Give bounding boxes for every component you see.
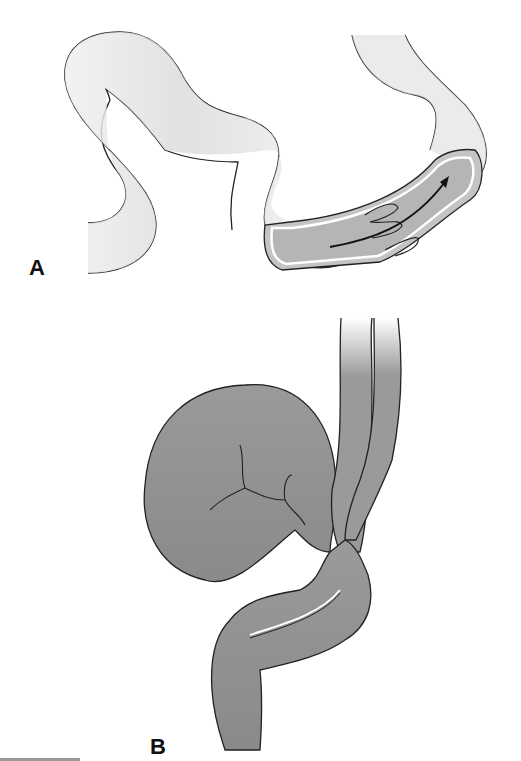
- panel-label-a: A: [29, 255, 45, 281]
- panel-b-volvulus: [0, 290, 521, 761]
- panel-label-b: B: [150, 734, 166, 760]
- panel-a-intussusception: [0, 0, 521, 290]
- volvulus-illustration: [0, 290, 521, 761]
- intussusception-illustration: [0, 0, 521, 290]
